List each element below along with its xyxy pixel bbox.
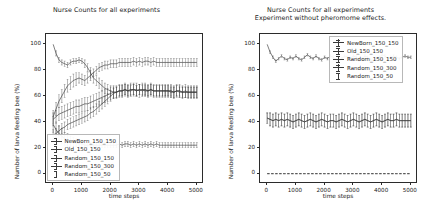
- right-x-tick-mark: [266, 183, 267, 185]
- left-series-NewBorn_150_150: [53, 44, 198, 97]
- legend-item-Old_150_150[interactable]: Old_150_150: [332, 47, 399, 55]
- right-x-tick-label: 4000: [367, 187, 395, 193]
- legend-marker-icon: [50, 170, 64, 178]
- left-x-tick-mark: [81, 183, 82, 185]
- legend-marker-icon: [332, 64, 346, 72]
- left-x-tick-mark: [52, 183, 53, 185]
- right-x-tick-label: 3000: [338, 187, 366, 193]
- left-y-tick-label: 80: [23, 66, 41, 72]
- legend-item-label: Random_150_50: [346, 73, 393, 79]
- right-y-tick-label: 80: [237, 66, 255, 72]
- left-y-tick-mark: [43, 69, 45, 70]
- left-x-tick-label: 4000: [153, 187, 181, 193]
- legend-item-label: Random_150_300: [64, 163, 115, 169]
- left-x-tick-mark: [138, 183, 139, 185]
- legend-marker-icon: [50, 154, 64, 162]
- right-x-tick-label: 1000: [281, 187, 309, 193]
- left-x-tick-label: 1000: [67, 187, 95, 193]
- left-y-tick-mark: [43, 121, 45, 122]
- left-y-tick-mark: [43, 43, 45, 44]
- legend-item-label: Old_150_150: [346, 48, 383, 54]
- left-chart-title-line1: Nurse Counts for all experiments: [53, 6, 160, 14]
- right-y-tick-label: 60: [237, 92, 255, 98]
- left-x-tick-mark: [196, 183, 197, 185]
- legend-marker-icon: [332, 39, 346, 47]
- right-y-tick-mark: [257, 173, 259, 174]
- left-x-tick-label: 2000: [96, 187, 124, 193]
- legend-item-label: Old_150_150: [64, 146, 101, 152]
- left-y-tick-label: 60: [23, 92, 41, 98]
- right-chart-title: Nurse Counts for all experiments Experim…: [214, 6, 427, 22]
- left-y-tick-label: 40: [23, 118, 41, 124]
- right-x-tick-mark: [410, 183, 411, 185]
- right-x-tick-mark: [352, 183, 353, 185]
- right-y-axis-label: Number of larva feeding bee (%): [228, 84, 234, 179]
- right-x-tick-label: 5000: [396, 187, 424, 193]
- legend-item-Random_150_300[interactable]: Random_150_300: [50, 162, 117, 170]
- right-x-tick-mark: [295, 183, 296, 185]
- left-x-tick-mark: [110, 183, 111, 185]
- right-chart-title-line2: Experiment without pheromome effects.: [214, 14, 427, 22]
- legend-item-label: Random_150_50: [64, 171, 111, 177]
- left-y-tick-mark: [43, 173, 45, 174]
- legend-item-NewBorn_150_150[interactable]: NewBorn_150_150: [332, 39, 399, 47]
- legend-marker-icon: [50, 145, 64, 153]
- right-y-tick-label: 100: [237, 40, 255, 46]
- chart-panel-right: Nurse Counts for all experiments Experim…: [214, 0, 427, 221]
- legend-item-Old_150_150[interactable]: Old_150_150: [50, 145, 117, 153]
- right-y-tick-mark: [257, 95, 259, 96]
- right-x-tick-label: 2000: [310, 187, 338, 193]
- right-x-tick-label: 0: [252, 187, 280, 193]
- legend-item-label: Random_150_300: [346, 65, 397, 71]
- left-x-tick-label: 5000: [182, 187, 210, 193]
- right-x-tick-mark: [324, 183, 325, 185]
- left-y-axis-label: Number of larva feeding bee (%): [14, 84, 20, 179]
- left-y-tick-mark: [43, 147, 45, 148]
- right-chart-title-line1: Nurse Counts for all experiments: [267, 6, 374, 14]
- legend-marker-icon: [332, 55, 346, 63]
- legend-marker-icon: [50, 162, 64, 170]
- right-legend[interactable]: NewBorn_150_150Old_150_150Random_150_150…: [329, 36, 403, 83]
- legend-item-label: Random_150_150: [346, 56, 397, 62]
- left-x-tick-label: 3000: [124, 187, 152, 193]
- right-x-axis-label: time steps: [259, 193, 417, 199]
- legend-item-label: NewBorn_150_150: [346, 40, 399, 46]
- legend-item-Random_150_150[interactable]: Random_150_150: [332, 55, 399, 63]
- legend-marker-icon: [332, 72, 346, 80]
- left-y-tick-label: 100: [23, 40, 41, 46]
- legend-item-Random_150_300[interactable]: Random_150_300: [332, 63, 399, 71]
- right-y-tick-mark: [257, 147, 259, 148]
- right-y-tick-label: 40: [237, 118, 255, 124]
- legend-item-Random_150_50[interactable]: Random_150_50: [50, 170, 117, 178]
- legend-item-label: Random_150_150: [64, 155, 115, 161]
- left-x-axis-label: time steps: [45, 193, 203, 199]
- right-x-tick-mark: [381, 183, 382, 185]
- figure-canvas: Nurse Counts for all experiments Number …: [0, 0, 427, 221]
- legend-item-label: NewBorn_150_150: [64, 138, 117, 144]
- legend-marker-icon: [50, 137, 64, 145]
- legend-item-NewBorn_150_150[interactable]: NewBorn_150_150: [50, 137, 117, 145]
- right-y-tick-mark: [257, 121, 259, 122]
- left-x-tick-label: 0: [38, 187, 66, 193]
- left-chart-title: Nurse Counts for all experiments: [0, 6, 213, 14]
- right-y-tick-mark: [257, 69, 259, 70]
- right-y-tick-label: 20: [237, 144, 255, 150]
- right-y-tick-mark: [257, 43, 259, 44]
- left-y-tick-label: 20: [23, 144, 41, 150]
- left-y-tick-label: 0: [23, 169, 41, 175]
- left-series-Random_150_50: [52, 84, 197, 140]
- right-series-Random_150_150: [266, 113, 411, 129]
- left-y-tick-mark: [43, 95, 45, 96]
- left-x-tick-mark: [167, 183, 168, 185]
- legend-item-Random_150_50[interactable]: Random_150_50: [332, 72, 399, 80]
- chart-panel-left: Nurse Counts for all experiments Number …: [0, 0, 213, 221]
- right-y-tick-label: 0: [237, 169, 255, 175]
- left-legend[interactable]: NewBorn_150_150Old_150_150Random_150_150…: [47, 134, 121, 181]
- legend-marker-icon: [332, 47, 346, 55]
- legend-item-Random_150_150[interactable]: Random_150_150: [50, 154, 117, 162]
